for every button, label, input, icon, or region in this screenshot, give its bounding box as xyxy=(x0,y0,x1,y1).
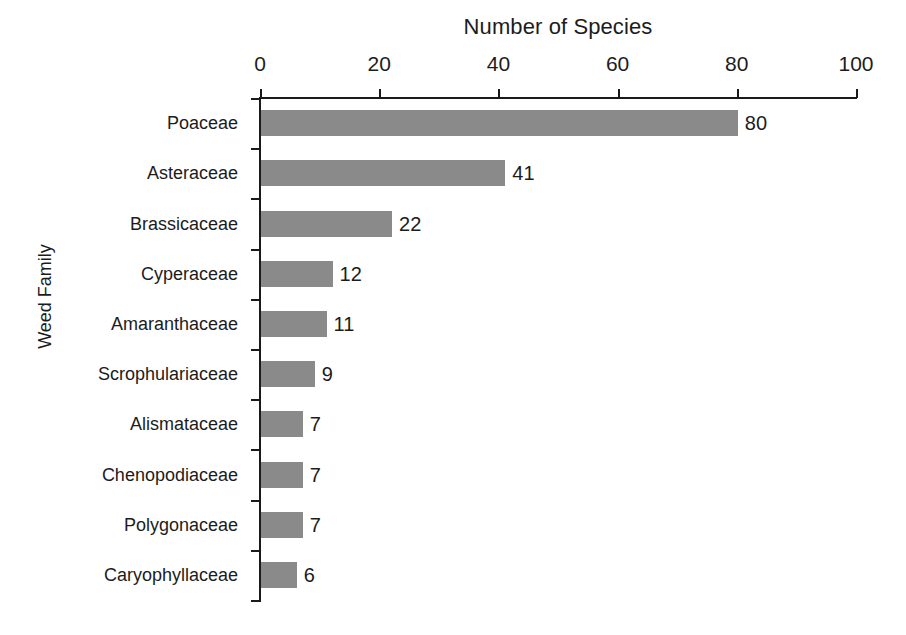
x-axis-tick-label-40: 40 xyxy=(468,52,528,76)
y-axis-tick-10 xyxy=(251,600,261,602)
bar xyxy=(261,562,297,588)
x-axis-tick-label-100: 100 xyxy=(826,52,886,76)
y-axis-category-label: Polygonaceae xyxy=(0,512,248,538)
bar-value-label: 11 xyxy=(334,311,355,337)
y-axis-category-label: Scrophulariaceae xyxy=(0,361,248,387)
x-axis-tick-label-80: 80 xyxy=(707,52,767,76)
y-axis-category-label: Chenopodiaceae xyxy=(0,462,248,488)
bar xyxy=(261,160,505,186)
bar-value-label: 7 xyxy=(310,512,321,538)
chart-title: Number of Species xyxy=(260,14,856,40)
bar xyxy=(261,361,315,387)
bar-value-label: 12 xyxy=(340,261,362,287)
bar-value-label: 7 xyxy=(310,462,321,488)
y-axis-tick-3 xyxy=(251,249,261,251)
x-axis-tick-label-0: 0 xyxy=(230,52,290,76)
y-axis-tick-5 xyxy=(251,349,261,351)
bar-value-label: 6 xyxy=(304,562,315,588)
y-axis-category-label: Amaranthaceae xyxy=(0,311,248,337)
bar xyxy=(261,110,738,136)
bar xyxy=(261,311,327,337)
y-axis-tick-9 xyxy=(251,550,261,552)
y-axis-category-label: Asteraceae xyxy=(0,160,248,186)
y-axis-tick-6 xyxy=(251,399,261,401)
bar xyxy=(261,411,303,437)
y-axis-category-label: Caryophyllaceae xyxy=(0,562,248,588)
bar-value-label: 9 xyxy=(322,361,333,387)
y-axis-tick-4 xyxy=(251,299,261,301)
x-axis-tick-label-60: 60 xyxy=(588,52,648,76)
x-axis-tick-label-20: 20 xyxy=(349,52,409,76)
bar-value-label: 80 xyxy=(745,110,767,136)
y-axis-tick-0 xyxy=(251,98,261,100)
y-axis-tick-1 xyxy=(251,148,261,150)
y-axis-category-label: Brassicaceae xyxy=(0,211,248,237)
y-axis-tick-2 xyxy=(251,198,261,200)
bar xyxy=(261,261,333,287)
y-axis-category-label: Cyperaceae xyxy=(0,261,248,287)
bar xyxy=(261,211,392,237)
bar-value-label: 41 xyxy=(512,160,534,186)
x-axis-line xyxy=(260,97,857,99)
bar-value-label: 7 xyxy=(310,411,321,437)
bar-value-label: 22 xyxy=(399,211,421,237)
bar xyxy=(261,512,303,538)
y-axis-category-label: Poaceae xyxy=(0,110,248,136)
y-axis-tick-7 xyxy=(251,449,261,451)
y-axis-tick-8 xyxy=(251,500,261,502)
bar-chart: Number of Species Weed Family 0204060801… xyxy=(0,0,906,635)
bar xyxy=(261,462,303,488)
y-axis-category-label: Alismataceae xyxy=(0,411,248,437)
